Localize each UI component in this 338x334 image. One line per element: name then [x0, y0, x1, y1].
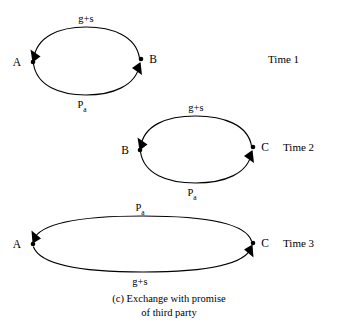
time-2-time-label: Time 2	[283, 141, 314, 153]
exchange-diagram: A B g+s Pa Time 1 B C	[0, 0, 338, 334]
time-2-node-c-label: C	[261, 141, 269, 153]
time-1-bottom-edge-label-sub: a	[83, 105, 87, 114]
time-3-bottom-edge-label-main: g+s	[132, 276, 147, 287]
time-3-bottom-arc	[34, 247, 252, 272]
time-2-node-c-dot	[251, 145, 256, 150]
time-2-bottom-arc	[141, 152, 252, 183]
time-2-node-b-label: B	[121, 144, 129, 156]
time-1-bottom-arc	[34, 64, 140, 95]
time-1-bottom-edge-label: Pa	[77, 99, 87, 114]
time-2-top-edge-label: g+s	[188, 102, 203, 113]
time-1-node-a-label: A	[13, 56, 22, 68]
stage-time-1: A B g+s Pa Time 1	[13, 13, 299, 114]
time-1-node-b-label: B	[149, 53, 157, 65]
time-2-node-b-dot	[138, 148, 143, 153]
figure-caption-line-2: of third party	[0, 306, 338, 320]
time-3-node-c-dot	[251, 241, 256, 246]
time-3-node-a-dot	[31, 242, 36, 247]
figure-caption-line-1: (c) Exchange with promise	[0, 292, 338, 306]
time-1-node-a-dot	[31, 60, 36, 65]
time-3-bottom-edge-label: g+s	[132, 276, 147, 287]
time-2-top-edge-label-main: g+s	[188, 102, 203, 113]
time-2-bottom-edge-label: Pa	[187, 187, 197, 202]
time-1-node-b-dot	[139, 57, 144, 62]
time-2-top-arc	[141, 116, 252, 148]
figure-panel: A B g+s Pa Time 1 B C	[0, 0, 338, 334]
time-1-time-label: Time 1	[268, 53, 299, 65]
time-1-top-arc	[34, 27, 140, 60]
time-3-node-a-label: A	[13, 238, 22, 250]
time-3-time-label: Time 3	[283, 237, 315, 249]
time-3-node-c-label: C	[261, 237, 269, 249]
time-1-top-edge-label: g+s	[78, 13, 93, 24]
time-3-top-arc	[34, 216, 252, 241]
time-3-top-edge-label: Pa	[135, 202, 145, 217]
stage-time-2: B C g+s Pa Time 2	[121, 102, 314, 202]
time-1-top-edge-label-main: g+s	[78, 13, 93, 24]
time-2-bottom-edge-label-sub: a	[193, 193, 197, 202]
stage-time-3: A C Pa g+s Time 3	[13, 202, 315, 287]
time-3-top-edge-label-sub: a	[141, 208, 145, 217]
figure-caption: (c) Exchange with promise of third party	[0, 292, 338, 320]
